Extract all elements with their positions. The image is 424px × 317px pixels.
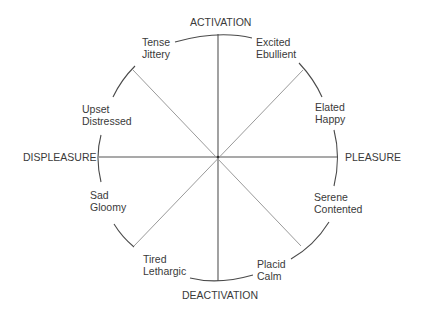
axis-label-pleasure: PLEASURE xyxy=(345,151,401,163)
affect-label-sad-gloomy: Sad Gloomy xyxy=(90,189,126,213)
affect-word: Excited xyxy=(256,36,296,48)
affect-word: Jittery xyxy=(142,48,170,60)
arc-right xyxy=(334,130,338,186)
affect-word: Distressed xyxy=(82,115,132,127)
affect-word: Happy xyxy=(315,113,345,125)
affect-word: Lethargic xyxy=(143,265,186,277)
arc-lower-right xyxy=(291,222,329,259)
affect-word: Gloomy xyxy=(90,201,126,213)
affect-word: Contented xyxy=(314,203,362,215)
center-point xyxy=(217,156,220,159)
affect-word: Tired xyxy=(143,253,186,265)
affect-label-tired-lethargic: Tired Lethargic xyxy=(143,253,186,277)
affect-word: Tense xyxy=(142,36,170,48)
axis-label-activation: ACTIVATION xyxy=(190,16,251,28)
affect-word: Placid xyxy=(257,258,286,270)
affect-word: Sad xyxy=(90,189,126,201)
arc-bottom xyxy=(190,275,253,281)
axis-label-displeasure: DISPLEASURE xyxy=(23,151,97,163)
arc-upper-left xyxy=(113,66,135,97)
affect-word: Upset xyxy=(82,103,132,115)
affect-label-serene-contented: Serene Contented xyxy=(314,191,362,215)
arc-upper-right xyxy=(299,63,322,97)
affect-label-placid-calm: Placid Calm xyxy=(257,258,286,282)
affect-word: Elated xyxy=(315,101,345,113)
axis-label-deactivation: DEACTIVATION xyxy=(182,289,258,301)
affect-label-elated-happy: Elated Happy xyxy=(315,101,345,125)
arc-top xyxy=(175,35,252,42)
affect-label-upset-distressed: Upset Distressed xyxy=(82,103,132,127)
affect-label-excited-ebullient: Excited Ebullient xyxy=(256,36,296,60)
diagonal-line-ul-lr xyxy=(133,70,301,246)
affect-word: Ebullient xyxy=(256,48,296,60)
affect-word: Calm xyxy=(257,270,286,282)
arc-left xyxy=(98,135,101,182)
arc-lower-left xyxy=(114,224,134,247)
affect-label-tense-jittery: Tense Jittery xyxy=(142,36,170,60)
affect-word: Serene xyxy=(314,191,362,203)
